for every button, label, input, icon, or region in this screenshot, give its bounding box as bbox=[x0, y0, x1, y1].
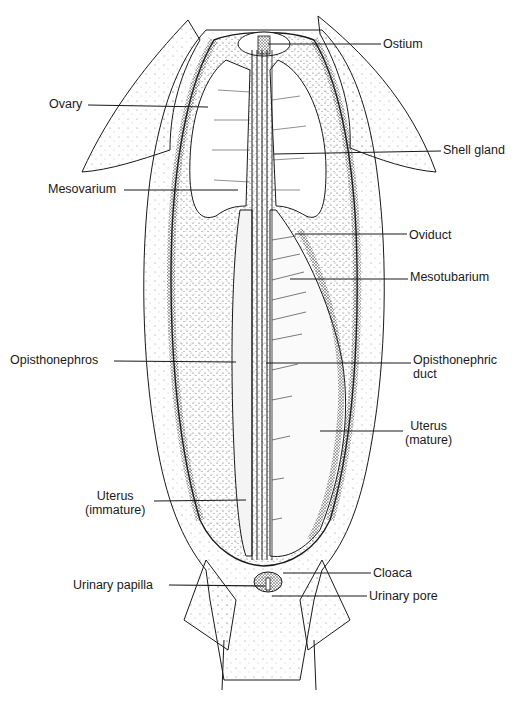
label-urinary-papilla: Urinary papilla bbox=[73, 578, 153, 592]
label-uterus-immature: Uterus(immature) bbox=[85, 489, 145, 517]
label-oviduct: Oviduct bbox=[409, 228, 451, 242]
anatomy-diagram: OstiumOvaryShell glandMesovariumOviductM… bbox=[0, 0, 529, 701]
label-mesotubarium: Mesotubarium bbox=[410, 270, 489, 284]
label-opisthonephros: Opisthonephros bbox=[10, 353, 98, 367]
label-ovary: Ovary bbox=[49, 97, 82, 111]
label-urinary-pore: Urinary pore bbox=[369, 589, 438, 603]
label-uterus-mature: Uterus(mature) bbox=[405, 419, 452, 447]
cloaca bbox=[254, 572, 282, 592]
label-shell-gland: Shell gland bbox=[443, 143, 505, 157]
label-opisthonephric-duct: Opisthonephricduct bbox=[413, 353, 497, 381]
label-cloaca: Cloaca bbox=[373, 566, 412, 580]
label-ostium: Ostium bbox=[383, 37, 423, 51]
label-mesovarium: Mesovarium bbox=[48, 182, 116, 196]
